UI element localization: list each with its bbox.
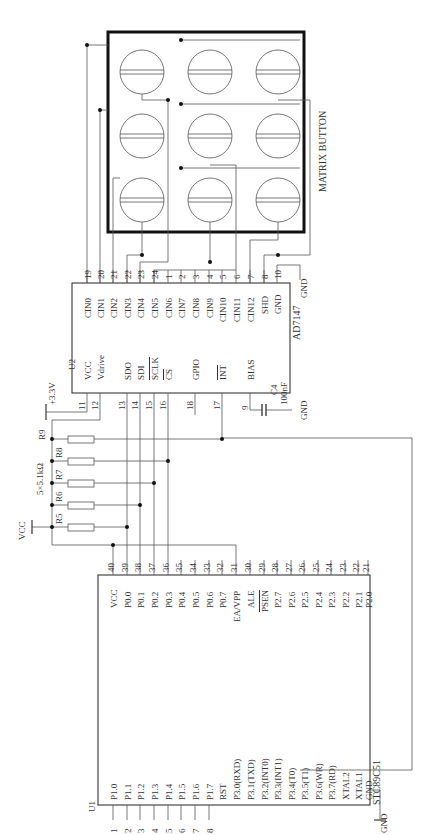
- u2-pin-cin12: CIN12: [247, 298, 256, 323]
- junction-dots: [50, 38, 280, 547]
- u1-pinnum-1: 1: [110, 829, 119, 834]
- u1-pinnum-6: 6: [178, 829, 187, 834]
- u2-pin-bias: BIAS: [247, 359, 256, 380]
- u1-pin-p15: P1.5: [178, 784, 187, 800]
- u2-pinnum-7: 7: [247, 275, 256, 280]
- u1-pin-p36: P3.6(WR): [315, 763, 324, 800]
- u2-pin-cin11: CIN11: [233, 298, 242, 322]
- u2-pin-gpio: GPIO: [192, 359, 201, 380]
- u2-pinnum-3: 3: [192, 275, 201, 280]
- u1-pin-p27: P2.7: [274, 592, 283, 608]
- u2-pin-vcc: VCC: [84, 361, 93, 380]
- r8-ref: R8: [55, 447, 64, 458]
- u1-pin-ea-vpp: EA/VPP: [233, 591, 242, 622]
- u2-part: AD7147: [292, 306, 301, 340]
- u2-pin-shd: SHD: [261, 296, 270, 314]
- u1-pin-p17: P1.7: [206, 784, 215, 800]
- c4-ref: C4: [270, 384, 279, 395]
- u1-pin-p03: P0.3: [165, 592, 174, 608]
- u1-pinnum-25: 25: [312, 563, 321, 572]
- u1-pin-p37: P3.7(RD): [328, 765, 337, 800]
- u1-pin-p04: P0.4: [178, 592, 187, 608]
- u2-pin-sdo: SDO: [124, 362, 133, 380]
- u2-pin-sclk: SCLK: [151, 357, 160, 380]
- u1-pinnum-26: 26: [298, 563, 307, 572]
- button-grid: [120, 50, 300, 222]
- u1-pin-p22: P2.2: [342, 592, 351, 608]
- u1-pinnum-5: 5: [165, 829, 174, 834]
- u1-pinnum-36: 36: [162, 563, 171, 572]
- u2-pinnum-18: 18: [186, 401, 195, 410]
- u1-pinnum-30: 30: [244, 563, 253, 572]
- schematic-canvas: MATRIX BUTTON U2 AD7147 +3.3V CIN0 CIN1 …: [0, 0, 433, 835]
- u1-pinnum-37: 37: [148, 563, 157, 572]
- u1-pin-gnd: GND: [365, 781, 374, 801]
- u1-pinnum-7: 7: [192, 829, 201, 834]
- u1-pin-p25: P2.5: [301, 592, 310, 608]
- u2-pinnum-19: 19: [84, 270, 93, 279]
- u1-pin-p24: P2.4: [315, 592, 324, 608]
- u1-ref: U1: [88, 801, 97, 812]
- u2-pin-cin6: CIN6: [165, 298, 174, 318]
- gnd-label-u2: GND: [300, 279, 309, 299]
- u2-pin-cin10: CIN10: [219, 298, 228, 323]
- u2-pinnum-9: 9: [241, 406, 250, 411]
- schematic-wires: [0, 0, 433, 835]
- u1-pin-p33: P3.3(INT1): [274, 758, 283, 800]
- u1-pin-ale: ALE: [247, 591, 256, 609]
- u2-pinnum-6: 6: [233, 275, 242, 280]
- u1-pinnum-32: 32: [216, 563, 225, 572]
- u2-pin-sdi: SDI: [137, 365, 146, 380]
- u2-pin-cin4: CIN4: [137, 298, 146, 318]
- u1-pin-p34: P3.4(T0): [288, 768, 297, 800]
- u1-pin-p35: P3.5(T1): [301, 768, 310, 800]
- u1-pinnum-22: 22: [352, 563, 361, 572]
- r7-ref: R7: [55, 469, 64, 480]
- u2-pinnum-1: 1: [165, 275, 174, 280]
- u2-pinnum-13: 13: [118, 401, 127, 410]
- u2-pinnum-22: 22: [124, 270, 133, 279]
- r6-ref: R6: [55, 491, 64, 502]
- matrix-label: MATRIX BUTTON: [318, 111, 327, 192]
- u1-pin-p31: P3.1(TXD): [247, 759, 256, 800]
- resistor-array-value: 5×5.1kΩ: [36, 463, 45, 495]
- u1-pinnum-31: 31: [230, 563, 239, 572]
- u2-pin-gnd: GND: [274, 295, 283, 315]
- u1-pinnum-35: 35: [175, 563, 184, 572]
- u2-pinnum-10: 10: [274, 270, 283, 279]
- u2-pinnum-15: 15: [145, 401, 154, 410]
- u2-pinnum-8: 8: [261, 275, 270, 280]
- u2-pin-cin3: CIN3: [124, 298, 133, 318]
- u2-pinnum-5: 5: [219, 275, 228, 280]
- u1-pin-p13: P1.3: [151, 784, 160, 800]
- u1-pin-rst: RST: [219, 783, 228, 800]
- u2-pinnum-4: 4: [206, 275, 215, 280]
- u1-pin-p01: P0.1: [137, 592, 146, 608]
- u1-pin-p05: P0.5: [192, 592, 201, 608]
- gnd-label-c4: GND: [300, 401, 309, 421]
- u1-pinnum-28: 28: [271, 563, 280, 572]
- u1-pin-p23: P2.3: [328, 592, 337, 608]
- u2-pin-cs: CS: [165, 369, 174, 380]
- u2-pinnum-16: 16: [159, 401, 168, 410]
- c4-value: 100nF: [280, 382, 289, 405]
- u2-pin-cin5: CIN5: [151, 298, 160, 318]
- u1-pin-p07: P0.7: [219, 592, 228, 608]
- u1-pinnum-3: 3: [137, 829, 146, 834]
- u1-pin-p11: P1.1: [124, 784, 133, 800]
- supply-3v3: +3.3V: [48, 382, 57, 405]
- u1-pin-xtal1: XTAL1: [355, 772, 364, 800]
- u2-pinnum-12: 12: [91, 401, 100, 410]
- u1-pin-p00: P0.0: [124, 592, 133, 608]
- vcc-label-rarray: VCC: [18, 521, 27, 540]
- u1-pin-p14: P1.4: [165, 784, 174, 800]
- u1-pin-xtal2: XTAL2: [342, 772, 351, 800]
- u1-pinnum-34: 34: [189, 563, 198, 572]
- u1-pin-p06: P0.6: [206, 592, 215, 608]
- u2-pinnum-20: 20: [97, 270, 106, 279]
- u1-pin-p21: P2.1: [355, 592, 364, 608]
- u2-ref: U2: [68, 359, 77, 370]
- u1-pinnum-23: 23: [339, 563, 348, 572]
- u2-pinnum-17: 17: [213, 401, 222, 410]
- u2-pin-cin1: CIN1: [97, 298, 106, 318]
